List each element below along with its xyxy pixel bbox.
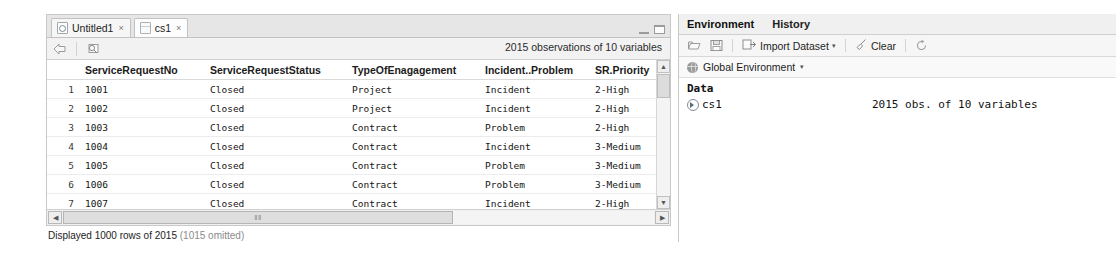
row-number: 7 [47, 194, 81, 210]
tab-cs1[interactable]: cs1 × [134, 18, 189, 37]
data-grid: ServiceRequestNo ServiceRequestStatus Ty… [47, 60, 670, 209]
column-header-servicerequeststatus[interactable]: ServiceRequestStatus [206, 60, 348, 80]
import-dataset-icon [742, 38, 757, 53]
expand-triangle-icon[interactable] [687, 99, 699, 111]
toolbar-divider [845, 39, 846, 52]
chevron-down-icon: ▾ [832, 42, 836, 50]
editor-tab-strip: Untitled1 × cs1 × [47, 15, 670, 38]
environment-pane: Environment History Import [678, 14, 1116, 242]
cell-typeofenagagement: Contract [348, 194, 481, 210]
cell-servicerequeststatus: Closed [206, 118, 348, 137]
table-row[interactable]: 1 1001 Closed Project Incident 2-High [47, 80, 670, 99]
tab-cs1-close-icon[interactable]: × [175, 24, 181, 33]
environment-tab-strip: Environment History [679, 14, 1116, 35]
toolbar-divider [76, 42, 77, 56]
observations-summary: 2015 observations of 10 variables [505, 41, 662, 53]
cell-incident-problem: Incident [481, 194, 591, 210]
globe-icon [687, 62, 698, 73]
row-number: 3 [47, 118, 81, 137]
tab-untitled1-label: Untitled1 [72, 22, 113, 34]
column-header-rownum [47, 60, 81, 80]
table-header-row: ServiceRequestNo ServiceRequestStatus Ty… [47, 60, 670, 80]
refresh-icon[interactable] [912, 38, 931, 53]
table-row[interactable]: 4 1004 Closed Contract Incident 3-Medium [47, 137, 670, 156]
cell-incident-problem: Incident [481, 99, 591, 118]
data-viewer-toolbar: 2015 observations of 10 variables [47, 38, 670, 60]
cell-servicerequeststatus: Closed [206, 99, 348, 118]
vertical-scrollbar[interactable]: ▲ ▼ [656, 60, 670, 209]
scroll-right-icon[interactable]: ▶ [655, 211, 669, 224]
tab-untitled1[interactable]: Untitled1 × [51, 18, 131, 37]
cell-typeofenagagement: Contract [348, 137, 481, 156]
toolbar-divider [905, 39, 906, 52]
viewer-status-bar: Displayed 1000 rows of 2015 (1015 omitte… [48, 230, 244, 241]
chevron-down-icon: ▾ [800, 63, 804, 71]
environment-object-list: Data cs1 2015 obs. of 10 variables [679, 78, 1116, 242]
tab-cs1-label: cs1 [155, 22, 171, 34]
scroll-down-icon[interactable]: ▼ [657, 196, 670, 209]
tab-environment[interactable]: Environment [685, 16, 756, 32]
cell-servicerequeststatus: Closed [206, 194, 348, 210]
data-table-icon [140, 22, 151, 34]
horizontal-scrollbar-track[interactable]: ‖‖ [63, 211, 654, 224]
cell-incident-problem: Problem [481, 175, 591, 194]
load-workspace-icon[interactable] [684, 38, 705, 53]
pane-window-controls [639, 25, 665, 34]
cell-incident-problem: Incident [481, 80, 591, 99]
omitted-rows-text: (1015 omitted) [180, 230, 244, 241]
row-number: 6 [47, 175, 81, 194]
data-grid-container: ServiceRequestNo ServiceRequestStatus Ty… [47, 60, 670, 209]
table-row[interactable]: 5 1005 Closed Contract Problem 3-Medium [47, 156, 670, 175]
column-header-servicerequestno[interactable]: ServiceRequestNo [81, 60, 206, 80]
scroll-left-icon[interactable]: ◀ [48, 211, 62, 224]
cell-servicerequestno: 1006 [81, 175, 206, 194]
cell-servicerequestno: 1002 [81, 99, 206, 118]
import-dataset-button[interactable]: Import Dataset ▾ [739, 37, 839, 54]
cell-servicerequeststatus: Closed [206, 80, 348, 99]
horizontal-scrollbar-thumb[interactable]: ‖‖ [63, 211, 453, 224]
cell-servicerequestno: 1001 [81, 80, 206, 99]
cell-servicerequestno: 1007 [81, 194, 206, 210]
environment-variable-name: cs1 [702, 98, 872, 111]
cell-servicerequeststatus: Closed [206, 137, 348, 156]
table-row[interactable]: 6 1006 Closed Contract Problem 3-Medium [47, 175, 670, 194]
vertical-scrollbar-thumb[interactable] [657, 74, 670, 98]
cell-servicerequestno: 1005 [81, 156, 206, 175]
row-number: 1 [47, 80, 81, 99]
filter-icon[interactable] [80, 39, 106, 58]
toolbar-divider [732, 39, 733, 52]
broom-icon [855, 38, 868, 53]
cell-servicerequestno: 1003 [81, 118, 206, 137]
row-number: 2 [47, 99, 81, 118]
column-header-typeofenagagement[interactable]: TypeOfEnagagement [348, 60, 481, 80]
back-arrow-icon[interactable] [47, 39, 73, 58]
row-number: 5 [47, 156, 81, 175]
maximize-icon[interactable] [654, 25, 665, 34]
scroll-up-icon[interactable]: ▲ [657, 60, 670, 73]
clear-label: Clear [871, 40, 896, 52]
minimize-icon[interactable] [639, 26, 649, 34]
table-row[interactable]: 2 1002 Closed Project Incident 2-High [47, 99, 670, 118]
table-row[interactable]: 3 1003 Closed Contract Problem 2-High [47, 118, 670, 137]
cell-incident-problem: Incident [481, 137, 591, 156]
save-workspace-icon[interactable] [707, 38, 726, 53]
r-script-icon [57, 22, 68, 34]
table-row[interactable]: 7 1007 Closed Contract Incident 2-High [47, 194, 670, 210]
column-header-incident-problem[interactable]: Incident..Problem [481, 60, 591, 80]
tab-history[interactable]: History [770, 16, 812, 32]
cell-typeofenagagement: Project [348, 80, 481, 99]
row-number: 4 [47, 137, 81, 156]
environment-scope-label: Global Environment [703, 61, 795, 73]
environment-scope-selector[interactable]: Global Environment ▾ [679, 57, 1116, 78]
environment-group-data: Data [687, 82, 1116, 95]
horizontal-scrollbar[interactable]: ◀ ‖‖ ▶ [47, 209, 670, 225]
environment-variable-cs1[interactable]: cs1 2015 obs. of 10 variables [687, 98, 1116, 111]
clear-workspace-button[interactable]: Clear [852, 37, 899, 54]
cell-typeofenagagement: Project [348, 99, 481, 118]
cell-typeofenagagement: Contract [348, 118, 481, 137]
import-dataset-label: Import Dataset [760, 40, 829, 52]
cell-typeofenagagement: Contract [348, 175, 481, 194]
cell-typeofenagagement: Contract [348, 156, 481, 175]
environment-toolbar: Import Dataset ▾ Clear [679, 35, 1116, 57]
tab-untitled1-close-icon[interactable]: × [117, 24, 123, 33]
